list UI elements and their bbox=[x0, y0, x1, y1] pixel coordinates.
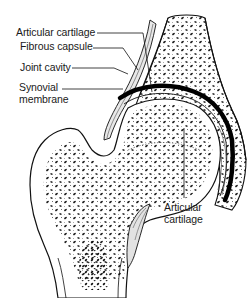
leader-fibrous-capsule bbox=[93, 48, 138, 70]
label-line: Synovial bbox=[19, 81, 68, 93]
label-joint-cavity: Joint cavity bbox=[20, 61, 71, 73]
label-synovial-membrane: Synovial membrane bbox=[19, 81, 68, 105]
femur-bone bbox=[30, 99, 220, 298]
label-fibrous-capsule: Fibrous capsule bbox=[20, 40, 93, 52]
label-line: membrane bbox=[19, 93, 68, 105]
label-line: cartilage bbox=[164, 213, 203, 225]
label-line: Fibrous capsule bbox=[20, 40, 93, 52]
label-line: Articular cartilage bbox=[16, 26, 95, 38]
label-line: Articular bbox=[164, 201, 203, 213]
leader-joint-cavity bbox=[72, 68, 128, 74]
label-line: Joint cavity bbox=[20, 61, 71, 73]
label-articular-cartilage-top: Articular cartilage bbox=[16, 26, 95, 38]
label-articular-cartilage-bottom: Articular cartilage bbox=[164, 201, 203, 225]
